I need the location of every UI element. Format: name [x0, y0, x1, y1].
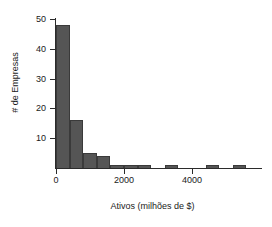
x-axis-line	[55, 168, 262, 169]
y-tick-50	[50, 19, 55, 20]
y-tick-20	[50, 108, 55, 109]
histogram-bar	[206, 165, 220, 168]
histogram-bar	[97, 156, 111, 168]
histogram-bar	[56, 25, 70, 168]
histogram-bar	[124, 165, 138, 168]
y-tick-40	[50, 49, 55, 50]
y-tick-30	[50, 79, 55, 80]
y-tick-label-20: 20	[22, 104, 46, 113]
histogram-bar	[138, 165, 152, 168]
x-tick-label-4000: 4000	[172, 176, 212, 185]
histogram-bar	[70, 120, 84, 168]
x-tick-0	[56, 169, 57, 174]
y-tick-label-30: 30	[22, 75, 46, 84]
histogram-bar	[83, 153, 97, 168]
x-tick-4000	[192, 169, 193, 174]
y-axis-title: # de Empresas	[11, 28, 20, 138]
x-axis-title: Ativos (milhões de $)	[40, 201, 265, 211]
x-tick-label-2000: 2000	[104, 176, 144, 185]
x-tick-label-0: 0	[36, 176, 76, 185]
y-tick-label-10: 10	[22, 134, 46, 143]
histogram-bar	[165, 165, 179, 168]
histogram-figure: 1020304050 020004000 # de Empresas Ativo…	[0, 0, 272, 227]
histogram-bar	[110, 165, 124, 168]
y-tick-label-50: 50	[22, 15, 46, 24]
y-tick-10	[50, 138, 55, 139]
plot-area: 1020304050 020004000 # de Empresas Ativo…	[0, 0, 272, 227]
x-tick-2000	[124, 169, 125, 174]
histogram-bar	[233, 165, 247, 168]
y-tick-label-40: 40	[22, 45, 46, 54]
